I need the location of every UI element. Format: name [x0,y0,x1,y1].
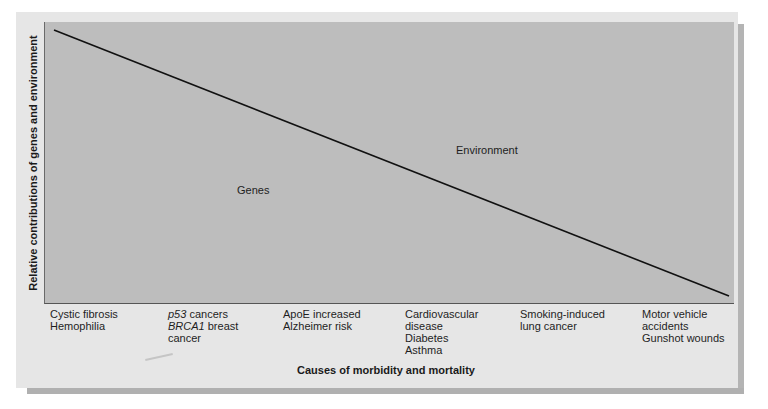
category-line-text: breast [205,320,239,332]
panel-shadow-right [737,24,744,394]
category-line: p53 cancers [168,308,238,320]
category-line: Cystic fibrosis [50,308,118,320]
category-line: Cardiovascular [405,308,478,320]
category-line: Smoking-induced [520,308,605,320]
category-line-text: cancers [186,308,228,320]
gene-name-p53: p53 [168,308,186,320]
category-cystic-fibrosis-hemophilia: Cystic fibrosis Hemophilia [50,308,118,332]
diagonal-divider-line [45,22,735,304]
category-line: lung cancer [520,320,605,332]
category-line: Motor vehicle [642,308,725,320]
environment-region-label: Environment [456,144,518,156]
category-line: accidents [642,320,725,332]
category-motor-vehicle-gunshot: Motor vehicle accidents Gunshot wounds [642,308,725,344]
category-line: disease [405,320,478,332]
category-cardiovascular-diabetes-asthma: Cardiovascular disease Diabetes Asthma [405,308,478,356]
plot-area [44,22,734,304]
category-apoe-alzheimer: ApoE increased Alzheimer risk [283,308,361,332]
category-p53-brca1: p53 cancers BRCA1 breast cancer [168,308,238,344]
category-line: cancer [168,332,238,344]
category-line: Diabetes [405,332,478,344]
category-line: BRCA1 breast [168,320,238,332]
category-smoking-lung-cancer: Smoking-induced lung cancer [520,308,605,332]
category-line: Hemophilia [50,320,118,332]
category-line: Gunshot wounds [642,332,725,344]
x-axis-title: Causes of morbidity and mortality [0,364,768,376]
category-line: ApoE increased [283,308,361,320]
genes-region-label: Genes [237,184,269,196]
category-line: Alzheimer risk [283,320,361,332]
category-line: Asthma [405,344,478,356]
gene-name-brca1: BRCA1 [168,320,205,332]
panel-shadow-bottom [27,388,744,394]
y-axis-title: Relative contributions of genes and envi… [27,35,39,290]
